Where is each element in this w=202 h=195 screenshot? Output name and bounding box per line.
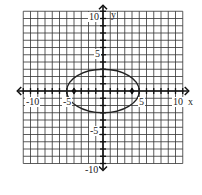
- x-tick-label: -10: [25, 97, 40, 107]
- x-tick-label: -5: [62, 97, 72, 107]
- y-tick-label: -5: [89, 126, 99, 136]
- x-tick-label: 5: [138, 97, 145, 107]
- focus-left-point: [72, 88, 77, 95]
- x-tick-label: 10: [172, 97, 184, 107]
- y-tick-label: 10: [88, 12, 100, 22]
- y-axis-label: y: [110, 10, 117, 20]
- y-tick-label: -10: [84, 165, 99, 175]
- focus-right-point: [130, 88, 135, 95]
- y-tick-label: 5: [94, 49, 101, 59]
- x-axis-label: x: [187, 97, 194, 107]
